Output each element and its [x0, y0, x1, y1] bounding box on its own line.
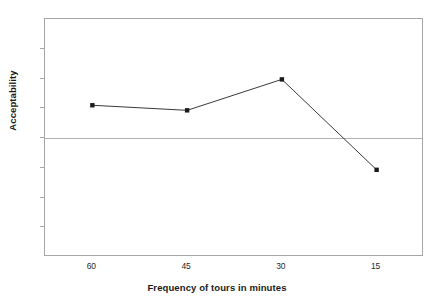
- x-axis-title: Frequency of tours in minutes: [0, 282, 434, 293]
- data-point-marker: [374, 168, 378, 172]
- plot-area: [44, 18, 423, 256]
- x-axis-tick-label: 60: [71, 262, 111, 271]
- x-axis-tick-label: 45: [166, 262, 206, 271]
- x-axis-tick-label: 15: [356, 262, 396, 271]
- x-axis-tick-label: 30: [261, 262, 301, 271]
- data-series-layer: [45, 19, 424, 257]
- line-chart: Acceptability 43210-1-2-3-4 60453015 Fre…: [0, 0, 434, 303]
- data-point-marker: [280, 77, 284, 81]
- data-point-marker: [90, 103, 94, 107]
- series-line: [92, 79, 376, 169]
- y-axis-title: Acceptability: [7, 56, 18, 146]
- data-point-marker: [185, 108, 189, 112]
